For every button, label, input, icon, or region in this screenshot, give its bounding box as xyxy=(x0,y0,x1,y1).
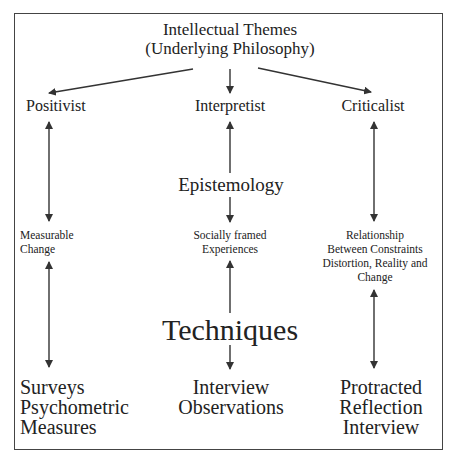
title-line-1: Intellectual Themes xyxy=(145,20,315,39)
middle-positivist-line-2: Change xyxy=(20,242,74,256)
middle-criticalist-line-3: Distortion, Reality and xyxy=(322,256,427,270)
middle-criticalist: Relationship Between Constraints Distort… xyxy=(322,228,427,284)
middle-positivist: Measurable Change xyxy=(20,228,74,256)
bottom-criticalist: Protracted Reflection Interview xyxy=(339,377,422,437)
bottom-interpretist: Interview Observations xyxy=(178,377,284,417)
bottom-criticalist-line-1: Protracted xyxy=(339,377,422,397)
diagram-title: Intellectual Themes (Underlying Philosop… xyxy=(145,20,315,58)
title-line-2: (Underlying Philosophy) xyxy=(145,39,315,58)
bottom-positivist-line-1: Surveys xyxy=(20,377,129,397)
heading-positivist: Positivist xyxy=(26,98,86,115)
middle-positivist-line-1: Measurable xyxy=(20,228,74,242)
bottom-interpretist-line-1: Interview xyxy=(178,377,284,397)
arrow-title-to-positivist xyxy=(49,69,193,93)
middle-criticalist-line-1: Relationship xyxy=(322,228,427,242)
middle-interpretist-line-2: Experiences xyxy=(193,242,266,256)
bottom-criticalist-line-2: Reflection xyxy=(339,397,422,417)
bottom-positivist-line-3: Measures xyxy=(20,417,129,437)
label-epistemology: Epistemology xyxy=(178,175,284,195)
heading-criticalist: Criticalist xyxy=(341,98,404,115)
bottom-positivist-line-2: Psychometric xyxy=(20,397,129,417)
label-techniques: Techniques xyxy=(162,314,298,346)
middle-criticalist-line-4: Change xyxy=(322,270,427,284)
bottom-positivist: Surveys Psychometric Measures xyxy=(20,377,129,437)
arrow-title-to-criticalist xyxy=(258,68,371,92)
bottom-interpretist-line-2: Observations xyxy=(178,397,284,417)
bottom-criticalist-line-3: Interview xyxy=(339,417,422,437)
heading-interpretist: Interpretist xyxy=(195,98,265,115)
middle-interpretist-line-1: Socially framed xyxy=(193,228,266,242)
middle-interpretist: Socially framed Experiences xyxy=(193,228,266,256)
middle-criticalist-line-2: Between Constraints xyxy=(322,242,427,256)
